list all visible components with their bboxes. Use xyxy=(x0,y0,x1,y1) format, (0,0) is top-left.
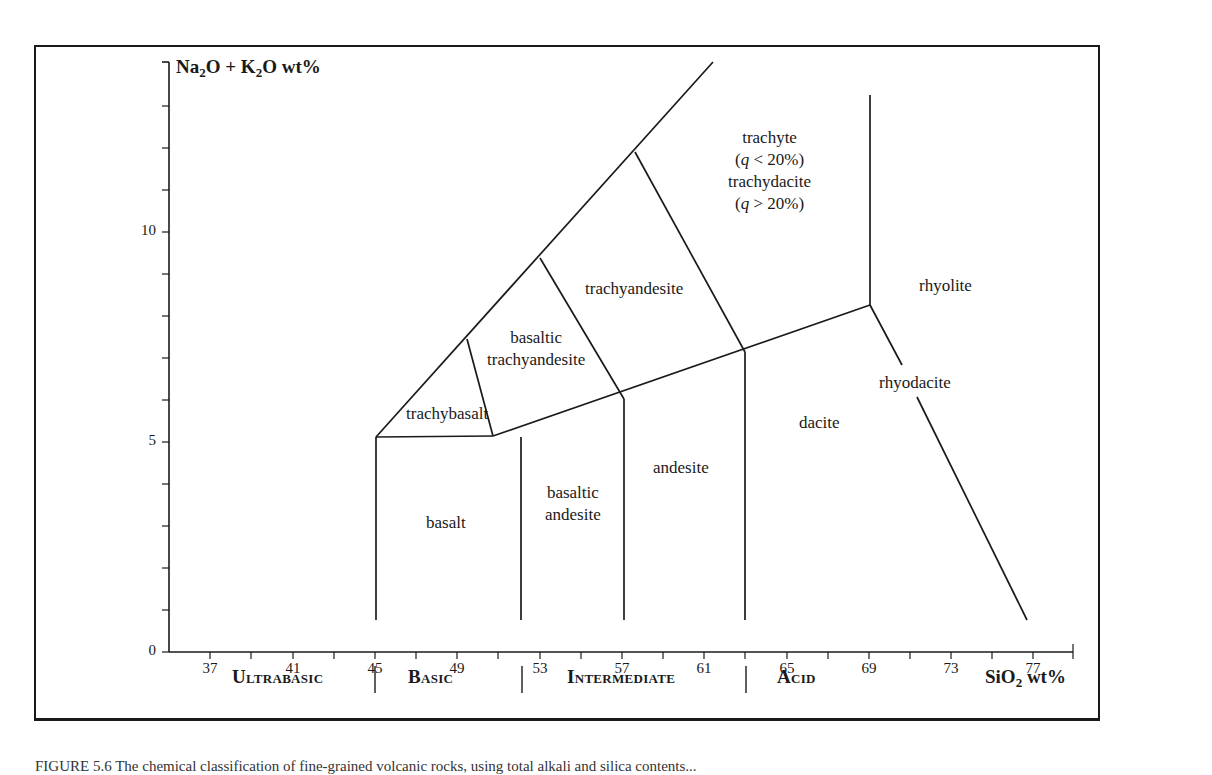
class-label-ultrabasic: Ultrabasic xyxy=(232,666,323,688)
boundary-rhyodacite-lower xyxy=(917,397,1027,620)
field-label-trachyte: trachyte (q < 20%) trachydacite (q > 20%… xyxy=(728,127,811,215)
x-tick-label: 73 xyxy=(931,660,971,677)
y-tick-label: 5 xyxy=(126,432,156,449)
y-axis-title: Na2O + K2O wt% xyxy=(176,56,321,81)
field-label-dacite: dacite xyxy=(799,412,840,434)
x-tick-label: 53 xyxy=(520,660,560,677)
x-axis-title: SiO2 wt% xyxy=(985,666,1066,691)
boundary-rhyodacite-upper xyxy=(870,305,902,365)
boundary-upper-diagonal xyxy=(376,62,713,437)
figure-caption: FIGURE 5.6 The chemical classification o… xyxy=(35,758,697,775)
x-tick-label: 37 xyxy=(190,660,230,677)
field-label-andesite: andesite xyxy=(653,457,709,479)
x-tick-label: 61 xyxy=(684,660,724,677)
class-label-acid: Acid xyxy=(777,666,816,688)
field-label-basaltic-trachyandesite: basaltic trachyandesite xyxy=(487,327,585,371)
class-label-intermediate: Intermediate xyxy=(567,666,675,688)
x-tick-label: 45 xyxy=(355,660,395,677)
x-tick-label: 69 xyxy=(849,660,889,677)
field-label-rhyodacite: rhyodacite xyxy=(879,372,951,394)
field-label-basaltic-andesite: basaltic andesite xyxy=(545,482,601,526)
field-label-basalt: basalt xyxy=(426,512,466,534)
class-label-basic: Basic xyxy=(408,666,453,688)
y-axis-ticks xyxy=(162,106,169,652)
y-tick-label: 0 xyxy=(126,642,156,659)
boundary-trachybasalt-base xyxy=(376,436,493,437)
y-tick-label: 10 xyxy=(126,222,156,239)
field-label-trachybasalt: trachybasalt xyxy=(406,403,488,425)
field-label-trachyandesite: trachyandesite xyxy=(585,278,683,300)
field-label-rhyolite: rhyolite xyxy=(919,275,972,297)
field-boundaries xyxy=(376,62,1027,620)
